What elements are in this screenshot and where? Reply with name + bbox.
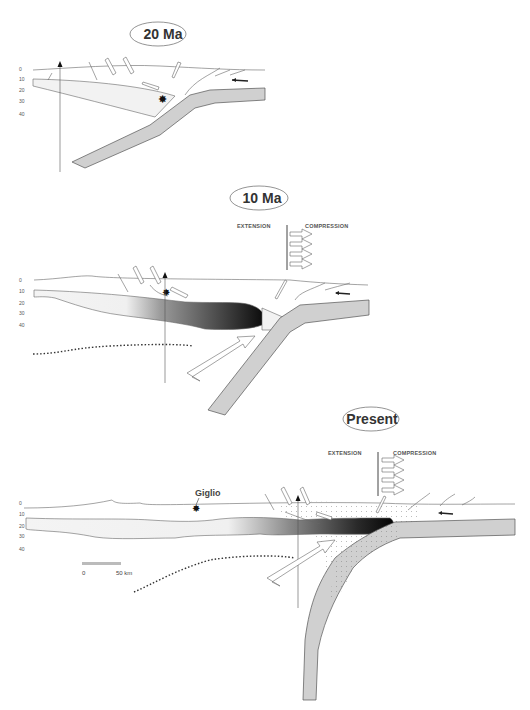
panel-title: 20 Ma <box>144 26 183 42</box>
depth-axis: 0 10 20 30 40 <box>19 66 25 117</box>
svg-text:10: 10 <box>19 288 25 294</box>
svg-text:0: 0 <box>19 500 22 506</box>
fault-slip-arrows <box>133 266 287 299</box>
compression-arrows <box>382 455 404 495</box>
svg-text:30: 30 <box>19 533 25 539</box>
topography-line <box>33 65 265 70</box>
panel-present: Present EXTENSION COMPRESSION 0 10 20 30… <box>19 407 515 700</box>
cross-section-diagram: 20 Ma 0 10 20 30 40 ✸ 10 Ma EXTENS <box>0 0 530 710</box>
title-badge-present: Present <box>343 407 399 431</box>
svg-text:40: 40 <box>19 546 25 552</box>
svg-text:30: 30 <box>19 98 25 104</box>
arrow-up-icon <box>296 495 301 501</box>
svg-text:10: 10 <box>19 511 25 517</box>
svg-text:40: 40 <box>19 322 25 328</box>
giglio-label: Giglio <box>195 488 221 498</box>
shear-arrow <box>170 287 188 298</box>
topography-line <box>34 276 368 285</box>
fault-slip-arrows <box>105 57 181 78</box>
depth-axis: 0 10 20 30 40 <box>19 500 25 552</box>
lower-crust <box>33 79 175 117</box>
compression-label: COMPRESSION <box>393 450 436 456</box>
title-badge-20ma: 20 Ma <box>130 22 186 46</box>
svg-text:0: 0 <box>19 66 22 72</box>
magmatism-star-icon: ✸ <box>162 287 170 298</box>
lithosphere-boundary-dotted <box>134 556 295 592</box>
panel-title: Present <box>346 411 398 427</box>
panel-10ma: 10 Ma EXTENSION COMPRESSION 0 10 20 30 4… <box>19 186 369 415</box>
panel-title: 10 Ma <box>243 190 282 206</box>
melt-body <box>34 290 265 330</box>
fault-lines <box>118 274 350 300</box>
scale-bar: 0 50 km <box>82 562 132 576</box>
svg-text:20: 20 <box>19 300 25 306</box>
svg-text:40: 40 <box>19 111 25 117</box>
magmatism-star-icon: ✸ <box>158 93 167 105</box>
svg-text:30: 30 <box>19 310 25 316</box>
svg-text:10: 10 <box>19 76 25 82</box>
arrow-up-icon <box>58 61 63 67</box>
svg-text:50 km: 50 km <box>116 570 132 576</box>
arrow-up-icon <box>163 272 168 278</box>
extension-label: EXTENSION <box>237 223 271 229</box>
lithosphere-boundary-dotted <box>33 345 193 355</box>
topography-line <box>24 500 515 508</box>
title-badge-10ma: 10 Ma <box>230 186 288 210</box>
compression-arrows <box>290 229 312 269</box>
svg-text:0: 0 <box>82 570 86 576</box>
svg-text:0: 0 <box>19 277 22 283</box>
extension-label: EXTENSION <box>328 450 362 456</box>
panel-20ma: 20 Ma 0 10 20 30 40 ✸ <box>19 22 265 172</box>
svg-text:20: 20 <box>19 523 25 529</box>
svg-text:20: 20 <box>19 87 25 93</box>
giglio-star-icon: ✸ <box>192 503 200 514</box>
compression-label: COMPRESSION <box>305 223 348 229</box>
depth-axis: 0 10 20 30 40 <box>19 277 25 328</box>
